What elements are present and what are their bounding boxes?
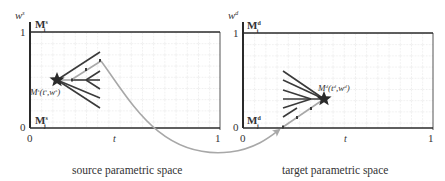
target-y-tick-0: 0 xyxy=(233,121,239,133)
target-x-axis-label: t xyxy=(344,133,347,144)
parametric-mapping-diagram: ws 1 0 0 1 t Msi Msj Ms(ts,ws) sou xyxy=(0,0,445,181)
source-top-boundary-label: Msi xyxy=(35,18,48,33)
target-grid xyxy=(243,33,433,128)
target-caption: target parametric space xyxy=(282,164,388,177)
source-y-tick-1: 1 xyxy=(20,26,26,38)
target-top-boundary-label: Mdi xyxy=(247,19,261,34)
source-x-tick-0: 0 xyxy=(27,132,33,144)
target-x-tick-0: 0 xyxy=(240,132,246,144)
source-caption: source parametric space xyxy=(72,164,182,177)
target-y-tick-1: 1 xyxy=(233,27,239,39)
source-y-tick-0: 0 xyxy=(20,121,26,133)
target-panel: wd 1 0 0 1 t Mdi Mdj Md(td,wd) target pa… xyxy=(228,9,434,177)
source-x-tick-1: 1 xyxy=(215,132,221,144)
target-y-axis-label: wd xyxy=(228,9,239,21)
source-panel: ws 1 0 0 1 t Msi Msj Ms(ts,ws) sou xyxy=(15,9,221,177)
source-x-axis-label: t xyxy=(113,133,116,144)
source-y-axis-label: ws xyxy=(15,9,25,21)
target-x-tick-1: 1 xyxy=(428,132,434,144)
